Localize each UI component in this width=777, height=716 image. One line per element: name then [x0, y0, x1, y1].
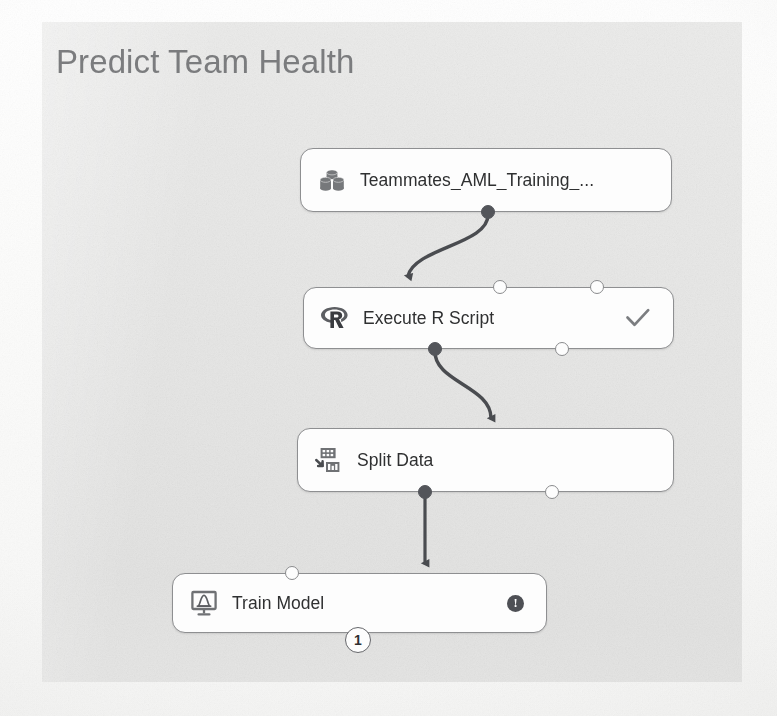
module-label-split-data: Split Data: [357, 450, 651, 470]
module-status-execute-r-script: [625, 307, 651, 329]
module-status-train-model[interactable]: !: [507, 595, 524, 612]
module-label-dataset: Teammates_AML_Training_...: [360, 170, 649, 190]
train-model-monitor-icon: [189, 588, 219, 618]
output-port-r-script-2[interactable]: [555, 342, 569, 356]
connector-dataset-to-r-script: [408, 214, 488, 276]
split-data-icon: [314, 445, 344, 475]
input-port-train-model-1[interactable]: [285, 566, 299, 580]
check-icon: [625, 307, 651, 329]
run-order-badge-train-model[interactable]: 1: [345, 627, 371, 653]
experiment-canvas[interactable]: Predict Team Health: [42, 22, 742, 682]
connector-r-script-to-split-data: [435, 350, 491, 418]
output-port-dataset[interactable]: [481, 205, 495, 219]
scanned-page-background: Predict Team Health: [0, 0, 777, 716]
dataset-cylinders-icon: [317, 165, 347, 195]
module-label-execute-r-script: Execute R Script: [363, 308, 625, 328]
output-port-split-data-1[interactable]: [418, 485, 432, 499]
module-node-dataset[interactable]: Teammates_AML_Training_...: [300, 148, 672, 212]
input-port-r-script-2[interactable]: [493, 280, 507, 294]
input-port-r-script-3[interactable]: [590, 280, 604, 294]
module-label-train-model: Train Model: [232, 593, 507, 613]
r-language-icon: [320, 303, 350, 333]
module-node-split-data[interactable]: Split Data: [297, 428, 674, 492]
module-node-execute-r-script[interactable]: Execute R Script: [303, 287, 674, 349]
module-node-train-model[interactable]: Train Model !: [172, 573, 547, 633]
output-port-r-script-1[interactable]: [428, 342, 442, 356]
alert-icon[interactable]: !: [507, 595, 524, 612]
output-port-split-data-2[interactable]: [545, 485, 559, 499]
